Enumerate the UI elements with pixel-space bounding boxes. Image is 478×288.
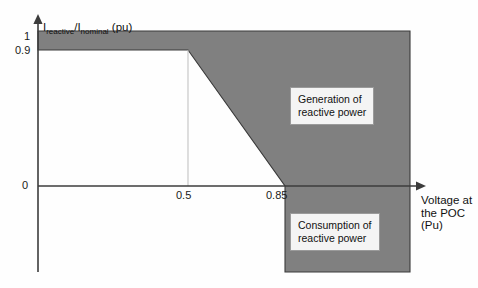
y-axis-label-sub-nominal: nominal bbox=[81, 27, 109, 36]
callout-generation-line-2: reactive power bbox=[298, 106, 366, 119]
y-tick-label-0: 0 bbox=[22, 180, 28, 191]
y-tick-label-1: 1 bbox=[24, 31, 30, 42]
y-axis-label-sub-reactive: reactive bbox=[46, 27, 74, 36]
x-axis-label-line-1: Voltage at bbox=[421, 194, 478, 207]
y-axis-label-unit: (pu) bbox=[109, 21, 133, 33]
x-tick-label-0-5: 0.5 bbox=[176, 190, 191, 201]
x-axis-label: Voltage at the POC (Pu) bbox=[421, 194, 478, 232]
callout-generation-line-1: Generation of bbox=[298, 93, 366, 106]
y-axis-label: Ireactive/Inominal (pu) bbox=[43, 22, 132, 36]
y-tick-label-0-9: 0.9 bbox=[15, 45, 30, 56]
callout-consumption-of-reactive-power: Consumption of reactive power bbox=[290, 213, 380, 251]
x-tick-label-0-85: 0.85 bbox=[266, 190, 287, 201]
callout-consumption-line-2: reactive power bbox=[298, 232, 372, 245]
callout-generation-of-reactive-power: Generation of reactive power bbox=[290, 87, 374, 125]
chart-canvas bbox=[0, 0, 478, 288]
callout-consumption-line-1: Consumption of bbox=[298, 219, 372, 232]
x-axis-label-line-3: (Pu) bbox=[421, 219, 478, 232]
x-axis-label-line-2: the POC bbox=[421, 207, 478, 220]
x-axis-arrow-icon bbox=[416, 181, 426, 190]
y-axis-arrow-icon bbox=[33, 14, 42, 24]
reactive-power-capability-figure: 1 0.9 0 0.5 0.85 Ireactive/Inominal (pu)… bbox=[0, 0, 478, 288]
